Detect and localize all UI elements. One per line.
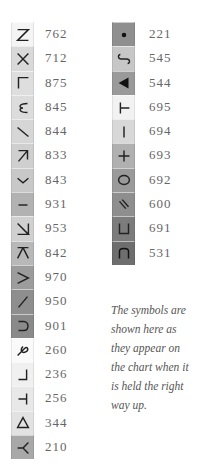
triangle-filled-icon <box>112 71 135 95</box>
circle-outline-icon <box>112 168 135 192</box>
symbol-code: 544 <box>149 75 172 91</box>
c-rotated-icon <box>11 314 34 338</box>
symbol-code: 843 <box>45 172 68 188</box>
backslash-line-icon <box>11 119 34 143</box>
symbol-code: 221 <box>149 26 172 42</box>
horizontal-dash-icon <box>11 192 34 216</box>
symbol-row: 600 <box>112 192 135 216</box>
symbol-row: 545 <box>112 46 135 70</box>
symbol-code: 260 <box>45 342 68 358</box>
symbol-code: 970 <box>45 269 68 285</box>
n-rotated-icon <box>11 216 34 240</box>
plus-icon <box>112 143 135 167</box>
symbol-row: 901 <box>11 314 34 338</box>
vertical-bar-icon <box>112 119 135 143</box>
corner-bottom-left-icon <box>11 71 34 95</box>
symbol-row: 256 <box>11 386 34 410</box>
symbol-code: 844 <box>45 123 68 139</box>
symbol-row: 531 <box>112 241 135 265</box>
symbol-code: 953 <box>45 220 68 236</box>
symbol-code: 236 <box>45 366 68 382</box>
symbol-code: 842 <box>45 245 68 261</box>
symbol-code: 256 <box>45 390 68 406</box>
symbol-row: 843 <box>11 168 34 192</box>
symbol-row: 221 <box>112 22 135 46</box>
symbol-row: 845 <box>11 95 34 119</box>
triangle-outline-icon <box>11 411 34 435</box>
symbol-row: 260 <box>11 338 34 362</box>
symbol-code: 950 <box>45 293 68 309</box>
symbol-row: 970 <box>11 265 34 289</box>
omega-rotated-icon <box>11 95 34 119</box>
symbol-row: 833 <box>11 143 34 167</box>
symbol-list-right: 221 545 544 695 694 693 692 600 691 531 <box>112 22 135 265</box>
corner-hook-icon <box>11 362 34 386</box>
symbol-code: 531 <box>149 245 172 261</box>
symbol-code: 692 <box>149 172 172 188</box>
symbol-row: 693 <box>112 143 135 167</box>
dot-icon <box>112 22 135 46</box>
symbol-row: 694 <box>112 119 135 143</box>
symbol-row: 210 <box>11 435 34 459</box>
symbol-row: 875 <box>11 71 34 95</box>
symbol-code: 833 <box>45 147 68 163</box>
symbol-code: 600 <box>149 196 172 212</box>
symbol-code: 694 <box>149 123 172 139</box>
s-rotated-icon <box>112 46 135 70</box>
symbol-row: 544 <box>112 71 135 95</box>
symbol-code: 712 <box>45 50 68 66</box>
k-rotated-icon <box>11 241 34 265</box>
double-slash-icon <box>112 192 135 216</box>
symbols-note: The symbols are shown here as they appea… <box>111 301 196 415</box>
loop-symbol-icon <box>11 338 34 362</box>
t-rotated-icon <box>11 386 34 410</box>
symbol-row: 344 <box>11 411 34 435</box>
symbol-code: 845 <box>45 99 68 115</box>
symbol-row: 844 <box>11 119 34 143</box>
symbol-code: 693 <box>149 147 172 163</box>
chevron-down-icon <box>11 168 34 192</box>
x-cross-icon <box>11 46 34 70</box>
greater-than-icon <box>11 265 34 289</box>
symbol-row: 953 <box>11 216 34 240</box>
symbol-row: 692 <box>112 168 135 192</box>
symbol-row: 950 <box>11 289 34 313</box>
symbol-list-left: 762 712 875 845 844 833 843 931 953 842 … <box>11 22 34 459</box>
u-rotated-icon <box>112 216 135 240</box>
symbol-row: 931 <box>11 192 34 216</box>
symbol-code: 545 <box>149 50 172 66</box>
y-rotated-icon <box>11 435 34 459</box>
symbol-code: 695 <box>149 99 172 115</box>
slash-line-icon <box>11 289 34 313</box>
symbol-code: 931 <box>45 196 68 212</box>
n-arch-icon <box>112 241 135 265</box>
symbol-row: 691 <box>112 216 135 240</box>
t-rotated-right-icon <box>112 95 135 119</box>
symbol-code: 691 <box>149 220 172 236</box>
symbol-row: 695 <box>112 95 135 119</box>
symbol-row: 712 <box>11 46 34 70</box>
symbol-code: 762 <box>45 26 68 42</box>
symbol-row: 762 <box>11 22 34 46</box>
symbol-row: 236 <box>11 362 34 386</box>
symbol-code: 875 <box>45 75 68 91</box>
symbol-code: 210 <box>45 439 68 455</box>
symbol-code: 344 <box>45 415 68 431</box>
northeast-arrow-icon <box>11 143 34 167</box>
symbol-row: 842 <box>11 241 34 265</box>
symbol-code: 901 <box>45 318 68 334</box>
z-letter-icon <box>11 22 34 46</box>
